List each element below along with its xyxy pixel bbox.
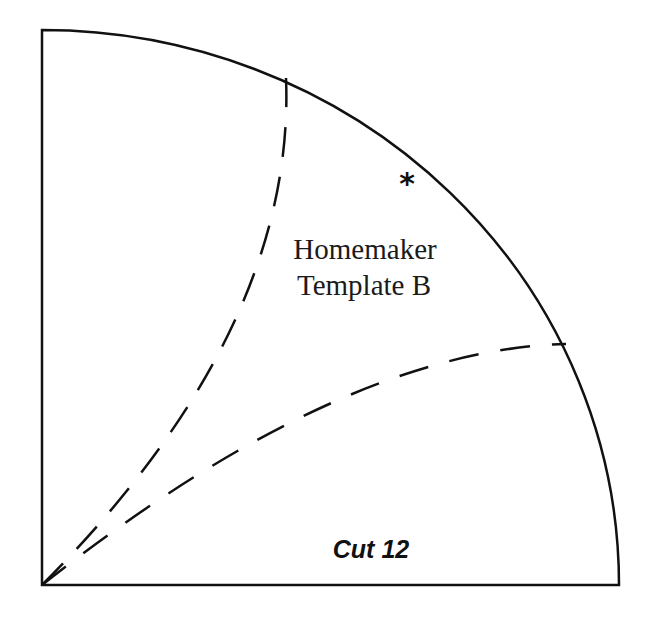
template-outline: [42, 30, 619, 585]
dashed-seam-line-1: [42, 78, 286, 585]
dashed-seam-line-2: [42, 344, 566, 585]
template-title-line-2: Template B: [297, 269, 431, 301]
cut-instruction: Cut 12: [333, 535, 410, 563]
asterisk-marker-icon: *: [399, 166, 415, 201]
quilt-template-diagram: * Homemaker Template B Cut 12: [0, 0, 659, 622]
template-title-line-1: Homemaker: [293, 233, 437, 265]
